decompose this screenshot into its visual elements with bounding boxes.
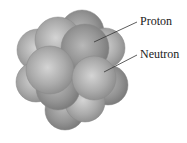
neutron-label: Neutron	[140, 48, 179, 60]
neutron-sphere	[72, 56, 116, 100]
nucleon-sphere	[26, 46, 74, 94]
proton-label: Proton	[140, 15, 172, 27]
nucleus-diagram: Proton Neutron	[0, 0, 187, 143]
